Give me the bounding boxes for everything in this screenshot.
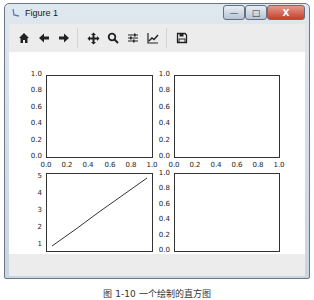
home-icon: [18, 32, 30, 44]
line-plot: [47, 174, 152, 251]
title-bar[interactable]: Figure 1 — □ X: [5, 4, 309, 24]
close-button[interactable]: X: [267, 5, 305, 20]
magnifier-icon: [107, 32, 119, 44]
minimize-button[interactable]: —: [223, 5, 245, 20]
window-title: Figure 1: [25, 8, 58, 18]
app-icon: [11, 8, 21, 18]
toolbar-separator: [77, 28, 78, 48]
save-button[interactable]: [173, 29, 191, 47]
move-icon: [87, 32, 100, 45]
figure-caption: 图 1-10 一个绘制的直方图: [0, 287, 314, 300]
figure-window: Figure 1 — □ X: [4, 3, 310, 279]
maximize-button[interactable]: □: [245, 5, 267, 20]
arrow-left-icon: [38, 32, 50, 44]
figure-canvas[interactable]: 1.0 0.8 0.6 0.4 0.2 0.0 0.0 0.2 0.4 0.6 …: [9, 52, 305, 254]
back-button[interactable]: [35, 29, 53, 47]
axes-top-right[interactable]: [174, 75, 280, 158]
forward-button[interactable]: [55, 29, 73, 47]
toolbar-separator: [166, 28, 167, 48]
sliders-icon: [127, 32, 139, 44]
zoom-button[interactable]: [104, 29, 122, 47]
navigation-toolbar: [9, 24, 305, 53]
data-line: [52, 178, 147, 246]
home-button[interactable]: [15, 29, 33, 47]
edit-axis-button[interactable]: [144, 29, 162, 47]
floppy-disk-icon: [176, 32, 188, 44]
pan-button[interactable]: [84, 29, 102, 47]
axes-top-left[interactable]: [46, 75, 153, 158]
status-bar: [9, 254, 305, 276]
arrow-right-icon: [58, 32, 70, 44]
axes-bottom-right[interactable]: [174, 173, 280, 252]
subplots-button[interactable]: [124, 29, 142, 47]
window-controls: — □ X: [223, 5, 305, 20]
chart-line-icon: [147, 32, 159, 44]
axes-bottom-left[interactable]: [46, 173, 153, 252]
